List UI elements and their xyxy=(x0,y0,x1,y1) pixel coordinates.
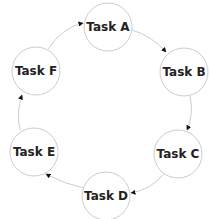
node-label: Task F xyxy=(15,64,57,78)
edge-e-to-f xyxy=(18,95,22,130)
edge-d-to-e xyxy=(46,174,84,188)
node-label: Task D xyxy=(84,189,128,203)
edge-a-to-b xyxy=(132,30,166,52)
edge-c-to-d xyxy=(131,174,164,193)
node-task-c[interactable]: Task C xyxy=(154,130,202,178)
task-cycle-diagram: Task A Task B Task C Task D Task E Task … xyxy=(0,0,210,219)
node-task-e[interactable]: Task E xyxy=(10,128,58,176)
node-task-b[interactable]: Task B xyxy=(160,48,208,96)
edge-f-to-a xyxy=(48,23,83,49)
node-task-f[interactable]: Task F xyxy=(12,47,60,95)
node-label: Task C xyxy=(157,147,200,161)
node-task-a[interactable]: Task A xyxy=(84,3,132,51)
node-label: Task E xyxy=(13,145,55,159)
node-label: Task A xyxy=(86,20,130,34)
edge-b-to-c xyxy=(187,96,191,130)
node-task-d[interactable]: Task D xyxy=(82,172,130,219)
node-label: Task B xyxy=(162,65,205,79)
